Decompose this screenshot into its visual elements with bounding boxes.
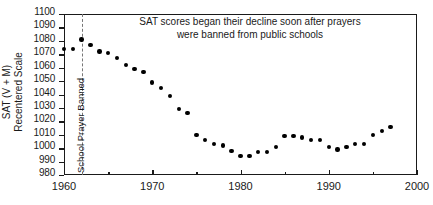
data-point [168, 94, 172, 98]
data-point [79, 37, 83, 41]
data-point [371, 133, 375, 137]
x-tick-mark [373, 172, 374, 175]
y-tick-label: 1020 [34, 114, 55, 124]
y-tick-mark [59, 95, 64, 96]
y-tick-mark [59, 68, 64, 69]
y-tick-mark [59, 162, 64, 163]
x-tick-mark [241, 170, 242, 175]
x-tick-mark [329, 170, 330, 175]
school-prayer-banned-label: School Prayer Banned [76, 78, 86, 173]
y-tick-label: 990 [39, 155, 55, 165]
y-tick-label: 1070 [34, 47, 55, 57]
y-tick-label: 1090 [34, 20, 55, 30]
data-point [124, 63, 128, 67]
y-axis-title-line2: Recentered Scale [13, 18, 25, 166]
data-point [282, 134, 286, 138]
data-point [194, 133, 198, 137]
y-tick-label: 1080 [34, 34, 55, 44]
data-point [380, 129, 384, 133]
y-axis-title: SAT (V + M) Recentered Scale [0, 0, 27, 18]
y-tick-label: 1000 [34, 141, 55, 151]
chart-annotation: SAT scores began their decline soon afte… [100, 15, 400, 41]
data-point [221, 143, 225, 147]
y-tick-mark [59, 81, 64, 82]
x-tick-label: 2000 [405, 181, 429, 192]
data-point [97, 49, 101, 53]
data-point [327, 145, 331, 149]
y-tick-mark [59, 135, 64, 136]
y-tick-label: 980 [39, 168, 55, 178]
data-point [344, 145, 348, 149]
y-tick-mark [59, 175, 64, 176]
sat-scores-chart: SAT (V + M) Recentered Scale 98099010001… [0, 0, 433, 205]
y-tick-label: 1010 [34, 128, 55, 138]
data-point [88, 43, 92, 47]
x-tick-label: 1990 [317, 181, 341, 192]
y-tick-mark [59, 108, 64, 109]
y-tick-mark [59, 41, 64, 42]
x-tick-mark [196, 172, 197, 175]
y-tick-label: 1030 [34, 101, 55, 111]
data-point [388, 125, 392, 129]
data-point [132, 67, 136, 71]
data-point [335, 147, 339, 151]
y-tick-label: 1050 [34, 74, 55, 84]
data-point [71, 47, 75, 51]
y-tick-mark [59, 54, 64, 55]
chart-annotation-line2: were banned from public schools [100, 28, 400, 41]
y-tick-mark [59, 14, 64, 15]
data-point [229, 149, 233, 153]
x-tick-label: 1980 [228, 181, 252, 192]
chart-annotation-line1: SAT scores began their decline soon afte… [100, 15, 400, 28]
y-tick-mark [59, 121, 64, 122]
data-point [141, 70, 145, 74]
y-axis-title-line1: SAT (V + M) [1, 18, 13, 166]
x-tick-label: 1970 [140, 181, 164, 192]
x-tick-mark [152, 170, 153, 175]
x-tick-mark [417, 170, 418, 175]
y-tick-label: 1060 [34, 61, 55, 71]
x-tick-mark [64, 170, 65, 175]
x-tick-label: 1960 [52, 181, 76, 192]
data-point [247, 154, 251, 158]
data-point [291, 134, 295, 138]
y-tick-mark [59, 148, 64, 149]
x-tick-mark [108, 172, 109, 175]
y-tick-label: 1100 [34, 7, 55, 17]
x-tick-mark [285, 172, 286, 175]
y-tick-mark [59, 27, 64, 28]
y-tick-label: 1040 [34, 88, 55, 98]
data-point [274, 145, 278, 149]
